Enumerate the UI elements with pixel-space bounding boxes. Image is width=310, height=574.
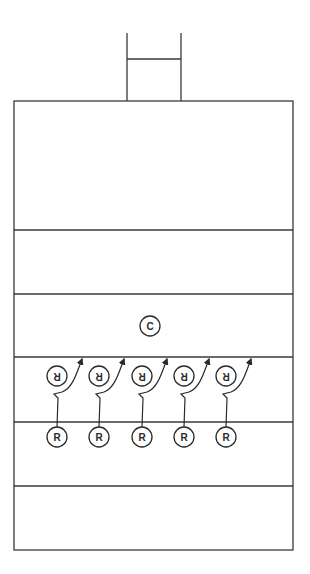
- svg-text:R: R: [180, 371, 188, 382]
- svg-text:R: R: [95, 432, 103, 443]
- goalposts: [127, 33, 181, 101]
- player-r-inverted: R: [174, 366, 194, 386]
- player-r: R: [216, 427, 236, 447]
- svg-text:R: R: [138, 371, 146, 382]
- player-r-inverted: R: [216, 366, 236, 386]
- player-r-inverted: R: [132, 366, 152, 386]
- svg-text:R: R: [222, 371, 230, 382]
- players: CRRRRRRRRRR: [47, 316, 236, 447]
- player-r-inverted: R: [47, 366, 67, 386]
- svg-text:R: R: [53, 432, 61, 443]
- player-r: R: [132, 427, 152, 447]
- player-r: R: [89, 427, 109, 447]
- rugby-field-diagram: CRRRRRRRRRR: [0, 0, 310, 574]
- svg-text:R: R: [222, 432, 230, 443]
- svg-text:R: R: [53, 371, 61, 382]
- player-r: R: [47, 427, 67, 447]
- svg-text:R: R: [95, 371, 103, 382]
- coach-marker: C: [140, 316, 160, 336]
- field-lines: [14, 230, 293, 486]
- svg-text:R: R: [138, 432, 146, 443]
- svg-text:R: R: [180, 432, 188, 443]
- player-r: R: [174, 427, 194, 447]
- svg-text:C: C: [146, 321, 153, 332]
- player-r-inverted: R: [89, 366, 109, 386]
